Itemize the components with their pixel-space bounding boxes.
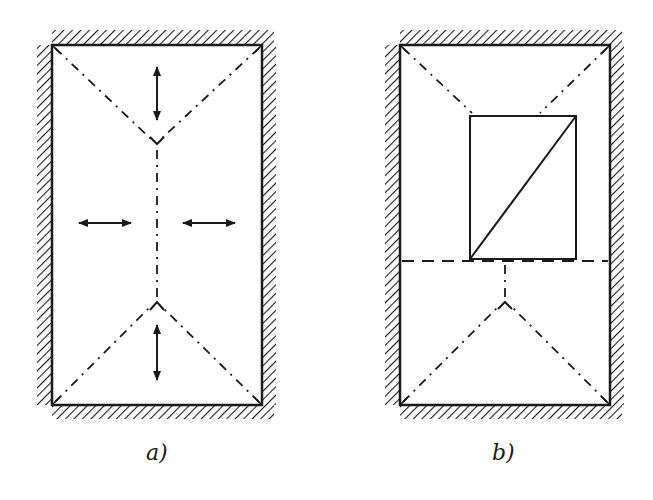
panel-a [37,30,276,419]
room-outline [400,45,610,405]
hatched-walls [385,30,624,419]
ridge-vertex-bottom [150,302,164,310]
ridge-vertex-top [150,137,164,144]
panel-a-label: a) [146,440,168,465]
inner-rectangle [470,116,576,259]
ridge-vertex-bottom [498,302,512,309]
corner-ticks [401,46,609,404]
panel-b-label: b) [492,440,515,465]
inner-diagonal [470,116,576,259]
panel-b [385,30,624,419]
diagram-canvas [0,0,653,500]
